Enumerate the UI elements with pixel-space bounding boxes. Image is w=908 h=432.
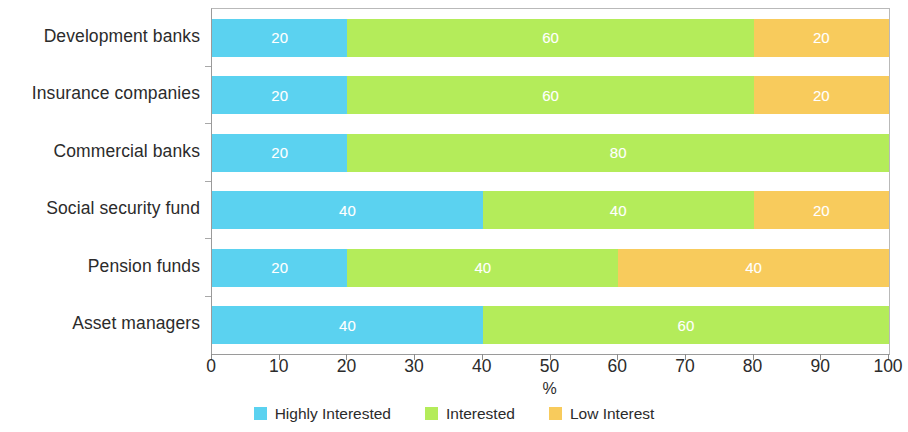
bar-segment-value: 40 xyxy=(745,260,762,275)
bar-segment-value: 20 xyxy=(271,260,288,275)
bar-row: 404020 xyxy=(212,191,889,229)
x-axis-tick-label: 70 xyxy=(675,358,694,376)
bar-segment-value: 20 xyxy=(813,30,830,45)
bar-segment-value: 60 xyxy=(542,88,559,103)
legend-swatch-icon xyxy=(549,407,562,420)
x-axis-tick-label: 0 xyxy=(206,358,216,376)
bar-segment-value: 80 xyxy=(610,145,627,160)
chart-legend: Highly InterestedInterestedLow Interest xyxy=(0,406,908,422)
bar-segment: 20 xyxy=(212,134,347,172)
legend-swatch-icon xyxy=(425,407,438,420)
x-axis-tick-label: 20 xyxy=(337,358,356,376)
legend-label: Highly Interested xyxy=(275,406,391,422)
legend-item[interactable]: Low Interest xyxy=(549,406,654,422)
bar-segment-value: 20 xyxy=(813,203,830,218)
bar-segment-value: 40 xyxy=(339,318,356,333)
x-axis-tick-labels: 0102030405060708090100 xyxy=(0,358,908,382)
x-axis-tick-label: 50 xyxy=(540,358,559,376)
legend-item[interactable]: Interested xyxy=(425,406,515,422)
bar-segment: 20 xyxy=(212,76,347,114)
bar-segment: 60 xyxy=(483,306,889,344)
category-axis-labels: Development banksInsurance companiesComm… xyxy=(0,8,200,353)
bar-row: 204040 xyxy=(212,249,889,287)
bar-segment: 40 xyxy=(483,191,754,229)
bar-segment: 40 xyxy=(212,191,483,229)
bar-segment: 60 xyxy=(347,19,753,57)
stacked-bar-chart: Development banksInsurance companiesComm… xyxy=(0,0,908,432)
bar-row: 206020 xyxy=(212,19,889,57)
category-label: Social security fund xyxy=(0,200,200,218)
bar-segment-value: 20 xyxy=(271,30,288,45)
bar-segment: 40 xyxy=(618,249,889,287)
bar-segment: 60 xyxy=(347,76,753,114)
bar-segment-value: 20 xyxy=(813,88,830,103)
x-axis-tick-label: 100 xyxy=(873,358,902,376)
legend-swatch-icon xyxy=(254,407,267,420)
legend-item[interactable]: Highly Interested xyxy=(254,406,391,422)
bar-segment-value: 40 xyxy=(339,203,356,218)
legend-label: Interested xyxy=(446,406,515,422)
bar-segment: 40 xyxy=(347,249,618,287)
bar-segment-value: 20 xyxy=(271,88,288,103)
x-axis-tick-label: 10 xyxy=(269,358,288,376)
plot-area: 20602020602020804040202040404060 xyxy=(211,8,890,355)
category-label: Asset managers xyxy=(0,315,200,333)
category-label: Development banks xyxy=(0,28,200,46)
bar-segment: 20 xyxy=(754,19,889,57)
bar-segment-value: 60 xyxy=(542,30,559,45)
x-axis-tick-label: 30 xyxy=(404,358,423,376)
bar-segment-value: 40 xyxy=(474,260,491,275)
bar-segment-value: 20 xyxy=(271,145,288,160)
x-axis-tick-label: 60 xyxy=(607,358,626,376)
bar-row: 2080 xyxy=(212,134,889,172)
bar-segment: 20 xyxy=(754,191,889,229)
bar-segment-value: 40 xyxy=(610,203,627,218)
x-axis-tick-label: 90 xyxy=(811,358,830,376)
bar-segment-value: 60 xyxy=(678,318,695,333)
x-axis-tick-label: 40 xyxy=(472,358,491,376)
category-label: Insurance companies xyxy=(0,85,200,103)
bar-segment: 20 xyxy=(754,76,889,114)
category-label: Commercial banks xyxy=(0,143,200,161)
legend-label: Low Interest xyxy=(570,406,654,422)
x-axis-tick-label: 80 xyxy=(743,358,762,376)
category-label: Pension funds xyxy=(0,258,200,276)
bar-row: 4060 xyxy=(212,306,889,344)
bar-segment: 20 xyxy=(212,19,347,57)
bar-segment: 20 xyxy=(212,249,347,287)
bar-segment: 40 xyxy=(212,306,483,344)
x-axis-title: % xyxy=(211,380,888,398)
bar-row: 206020 xyxy=(212,76,889,114)
bar-segment: 80 xyxy=(347,134,889,172)
